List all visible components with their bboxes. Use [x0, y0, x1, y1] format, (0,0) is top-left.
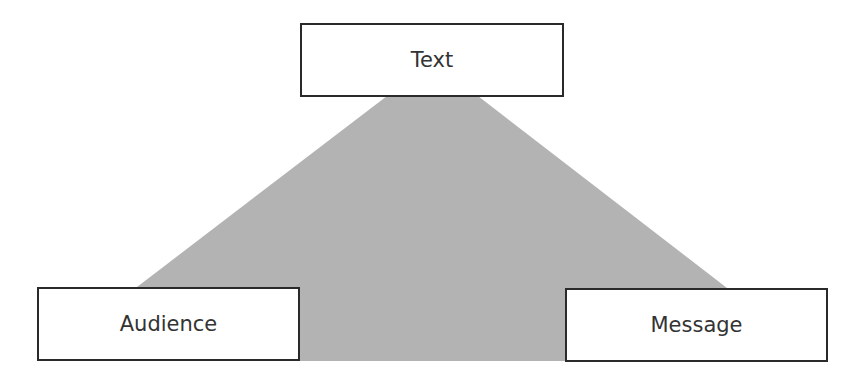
- node-audience: Audience: [37, 287, 300, 361]
- node-text: Text: [300, 23, 564, 97]
- node-audience-label: Audience: [120, 312, 218, 336]
- node-message: Message: [565, 288, 828, 362]
- node-message-label: Message: [650, 313, 742, 337]
- node-text-label: Text: [411, 48, 453, 72]
